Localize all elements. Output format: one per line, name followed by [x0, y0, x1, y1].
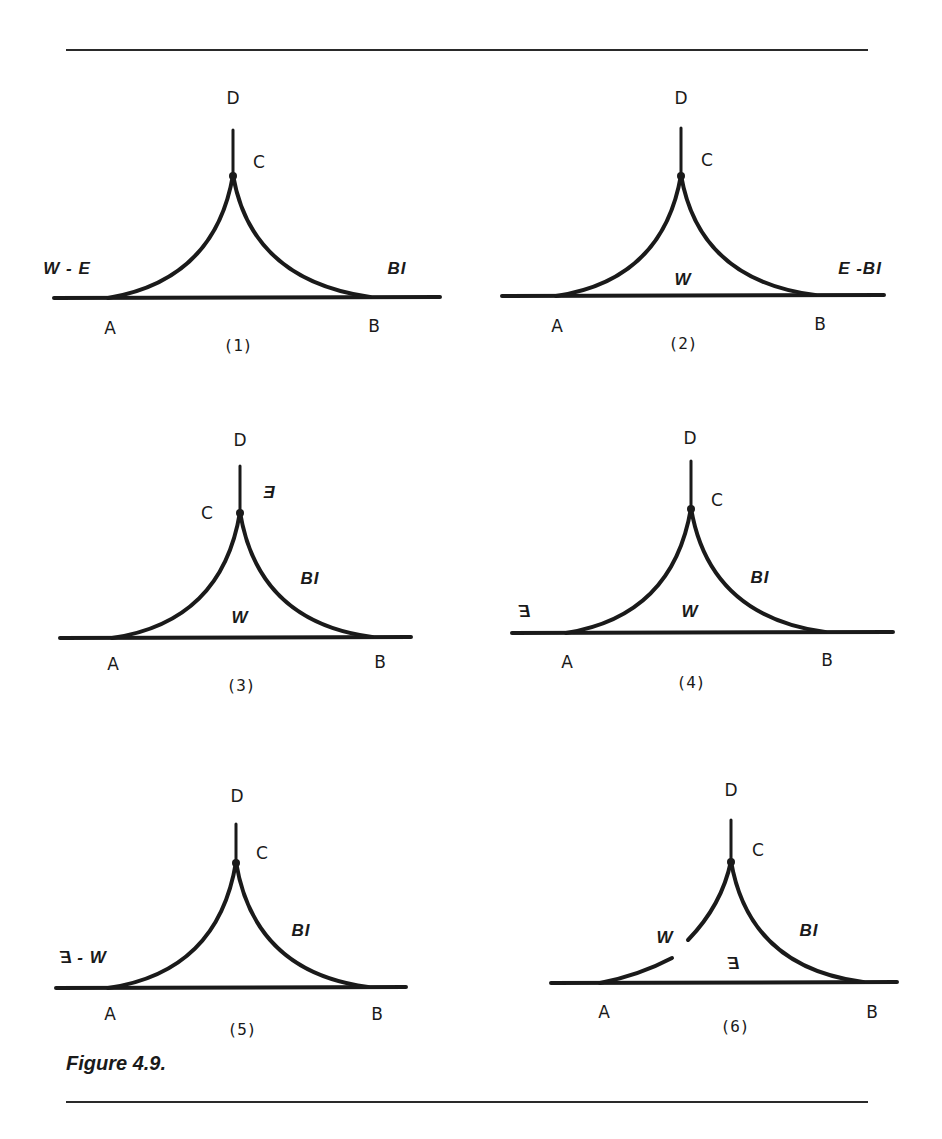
- phase-diagrams: [0, 0, 942, 1139]
- mirrored-e-glyph: E: [518, 603, 530, 620]
- point-d-label: D: [230, 788, 243, 805]
- phase-label-stem: E: [263, 483, 275, 500]
- phase-label-right: E -BI: [838, 260, 882, 277]
- point-b-label: B: [821, 652, 833, 669]
- point-b-label: B: [371, 1006, 383, 1023]
- panel-number: (6): [721, 1019, 750, 1035]
- point-c-label: C: [256, 845, 268, 862]
- point-b-label: B: [814, 316, 826, 333]
- point-c-label: C: [752, 842, 764, 859]
- phase-label-inside: W: [674, 271, 691, 288]
- mirrored-e-glyph: E: [59, 949, 71, 966]
- phase-label-arc-right: BI: [800, 922, 819, 939]
- w-glyph: W: [90, 948, 107, 967]
- panel-number: (5): [228, 1022, 257, 1038]
- point-a-label: A: [561, 654, 573, 671]
- phase-label-left: E: [518, 603, 530, 620]
- panel-number: (2): [669, 336, 698, 352]
- point-d-label: D: [233, 432, 246, 449]
- separator: -: [77, 948, 84, 967]
- panel-2-lines: [502, 128, 884, 296]
- point-d-label: D: [674, 90, 687, 107]
- point-c-label: C: [701, 152, 713, 169]
- rotated-e-glyph: E: [263, 483, 275, 500]
- phase-label-inside: W: [231, 609, 248, 626]
- phase-label-arc-left: W: [656, 929, 673, 946]
- point-b-label: B: [368, 318, 380, 335]
- panel-number: (4): [677, 675, 706, 691]
- panel-1-lines: [54, 130, 440, 298]
- point-a-label: A: [104, 320, 116, 337]
- point-c-label: C: [711, 492, 723, 509]
- panel-number: (1): [224, 338, 253, 354]
- point-c-label: C: [201, 505, 213, 522]
- point-d-label: D: [683, 430, 696, 447]
- phase-label-arc-right: BI: [751, 569, 770, 586]
- point-d-label: D: [226, 90, 239, 107]
- panel-4-lines: [512, 461, 893, 633]
- point-c-label: C: [253, 154, 265, 171]
- phase-label-inside: W: [681, 603, 698, 620]
- figure-caption: Figure 4.9.: [66, 1052, 166, 1075]
- point-a-label: A: [598, 1004, 610, 1021]
- point-b-label: B: [374, 654, 386, 671]
- phase-label-arc-right: BI: [301, 570, 320, 587]
- panel-number: (3): [227, 678, 256, 694]
- panel-6-lines: [551, 820, 897, 983]
- point-a-label: A: [551, 318, 563, 335]
- mirrored-e-glyph: E: [727, 955, 739, 972]
- phase-label-right: BI: [388, 260, 407, 277]
- phase-label-inside: E: [727, 955, 739, 972]
- point-b-label: B: [866, 1004, 878, 1021]
- point-a-label: A: [104, 1006, 116, 1023]
- point-a-label: A: [107, 656, 119, 673]
- phase-label-left: W - E: [43, 260, 91, 277]
- panel-5-lines: [56, 824, 406, 988]
- point-d-label: D: [724, 782, 737, 799]
- phase-label-arc-right: BI: [292, 922, 311, 939]
- phase-label-left: E - W: [59, 949, 107, 966]
